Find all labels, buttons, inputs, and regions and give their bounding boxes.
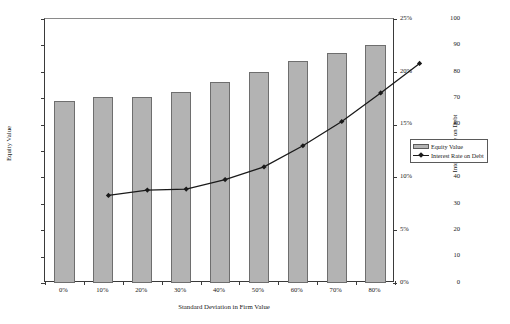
- y-axis-left-tick: [41, 151, 45, 152]
- y-axis-left-tick-label: 100: [436, 15, 460, 22]
- y-axis-left-tick: [41, 125, 45, 126]
- x-axis-tick: [239, 281, 240, 285]
- x-axis-tick-label: 20%: [121, 287, 161, 294]
- y-axis-left-tick: [41, 257, 45, 258]
- x-axis-tick-label: 60%: [277, 287, 317, 294]
- x-axis-tick-label: 80%: [355, 287, 395, 294]
- bar: [327, 53, 347, 283]
- y-axis-left-tick: [41, 204, 45, 205]
- x-axis-tick: [201, 281, 202, 285]
- y-axis-left-tick-label: 10: [436, 252, 460, 259]
- bar-swatch-icon: [413, 144, 429, 149]
- x-axis-tick-label: 40%: [199, 287, 239, 294]
- x-axis-tick-label: 50%: [238, 287, 278, 294]
- y-axis-left-tick-label: 80: [436, 68, 460, 75]
- bar: [365, 45, 385, 283]
- y-axis-left-tick: [41, 19, 45, 20]
- line-marker-swatch-icon: [413, 152, 429, 159]
- chart-legend: Equity Value Interest Rate on Debt: [410, 139, 488, 163]
- x-axis-tick: [317, 281, 318, 285]
- legend-label: Equity Value: [431, 143, 463, 150]
- x-axis-tick: [162, 281, 163, 285]
- x-axis-tick: [84, 281, 85, 285]
- legend-label: Interest Rate on Debt: [431, 152, 484, 159]
- bar: [54, 101, 74, 283]
- bar: [249, 72, 269, 283]
- x-axis-tick: [395, 281, 396, 285]
- y-axis-right-tick-label: 5%: [400, 226, 428, 233]
- y-axis-right-tick-label: 15%: [400, 120, 428, 127]
- chart-figure: 0102030405060708090100 0%5%10%15%20%25% …: [0, 0, 510, 324]
- bar: [132, 97, 152, 283]
- y-axis-left-title: Equity Value: [5, 84, 12, 204]
- y-axis-right-tick: [393, 230, 397, 231]
- y-axis-left-tick: [41, 230, 45, 231]
- x-axis-tick-label: 0%: [43, 287, 83, 294]
- y-axis-right-tick-label: 10%: [400, 173, 428, 180]
- x-axis-title: Standard Deviation in Firm Value: [124, 303, 324, 310]
- y-axis-left-tick-label: 90: [436, 41, 460, 48]
- bar: [288, 61, 308, 283]
- x-axis-tick: [123, 281, 124, 285]
- y-axis-right-tick: [393, 72, 397, 73]
- x-axis-tick-label: 70%: [316, 287, 356, 294]
- y-axis-right-tick-label: 25%: [400, 15, 428, 22]
- plot-area: [44, 18, 394, 282]
- x-axis-tick: [45, 281, 46, 285]
- y-axis-right-tick: [393, 125, 397, 126]
- legend-item-equity-value: Equity Value: [413, 142, 484, 151]
- x-axis-tick-label: 10%: [82, 287, 122, 294]
- y-axis-left-tick: [41, 177, 45, 178]
- x-axis-tick: [278, 281, 279, 285]
- y-axis-left-tick-label: 0: [436, 279, 460, 286]
- y-axis-right-tick-label: 0%: [400, 279, 428, 286]
- y-axis-right-tick-label: 20%: [400, 68, 428, 75]
- legend-item-interest-rate: Interest Rate on Debt: [413, 151, 484, 160]
- x-axis-tick-label: 30%: [160, 287, 200, 294]
- y-axis-right-tick: [393, 19, 397, 20]
- bar: [93, 97, 113, 283]
- bar: [210, 82, 230, 283]
- y-axis-left-tick: [41, 45, 45, 46]
- y-axis-left-tick: [41, 98, 45, 99]
- line-marker: [417, 61, 422, 66]
- x-axis-tick: [356, 281, 357, 285]
- bar: [171, 92, 191, 283]
- y-axis-left-tick-label: 20: [436, 226, 460, 233]
- y-axis-right-tick: [393, 177, 397, 178]
- y-axis-left-tick: [41, 72, 45, 73]
